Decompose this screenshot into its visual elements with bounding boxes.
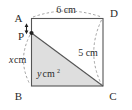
vertex-label-p: P (18, 30, 24, 42)
area-exponent: 2 (57, 68, 60, 74)
vertex-label-a: A (15, 12, 23, 24)
ap-arrow-icon (25, 23, 29, 34)
vertex-label-c: C (109, 90, 116, 102)
vertex-label-d: D (110, 7, 118, 19)
left-segment-label: x cm (8, 54, 26, 65)
geometry-diagram: A B C D P 6 cm 5 cm x cm y cm 2 (0, 0, 132, 110)
area-unit: cm (43, 68, 55, 79)
point-p-marker (29, 31, 33, 35)
area-variable: y (36, 68, 42, 79)
vertex-label-b: B (15, 90, 22, 102)
right-length-label: 5 cm (78, 47, 98, 58)
geometry-canvas: A B C D P 6 cm 5 cm x cm y cm 2 (0, 0, 132, 110)
left-segment-unit: cm (14, 54, 26, 65)
top-length-label: 6 cm (56, 4, 76, 15)
